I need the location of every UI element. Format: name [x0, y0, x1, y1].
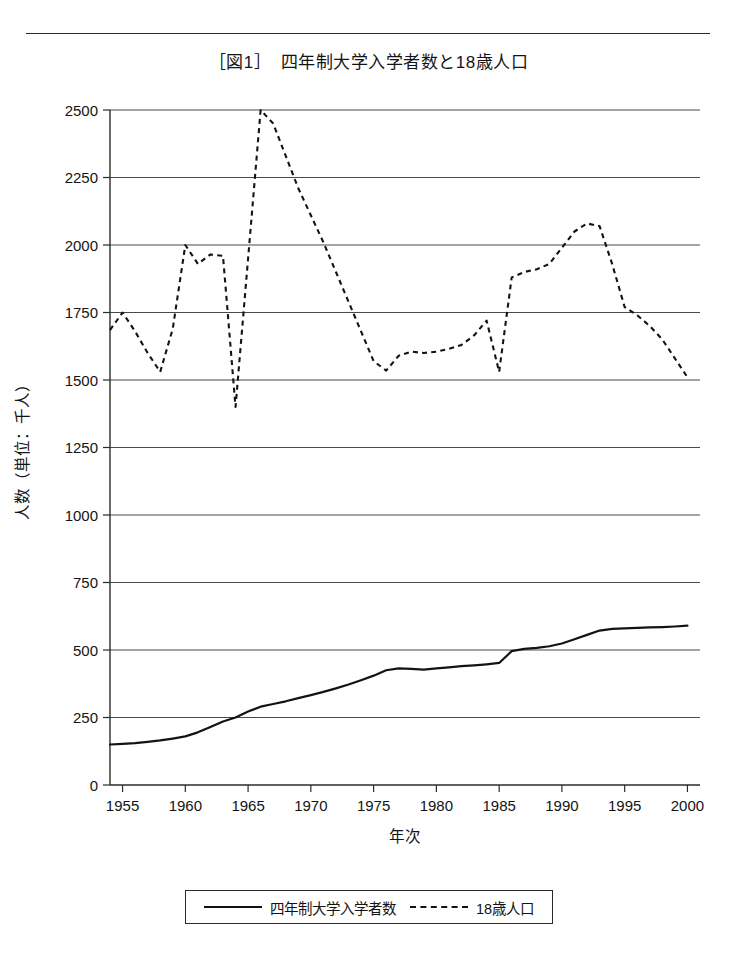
y-tick-label: 1750 [65, 304, 98, 321]
y-tick-label: 250 [73, 709, 98, 726]
y-tick-label: 1250 [65, 439, 98, 456]
x-tick-label: 1985 [482, 797, 515, 814]
y-tick-label: 2500 [65, 102, 98, 119]
y-axis-title: 人数（単位：千人） [14, 376, 31, 520]
x-tick-label: 1975 [357, 797, 390, 814]
x-axis-title: 年次 [389, 828, 421, 845]
x-tick-label: 1970 [294, 797, 327, 814]
series-line-1 [110, 626, 687, 745]
series-line-2 [110, 110, 687, 407]
solid-line-swatch-icon [204, 906, 262, 908]
data-series-group [110, 110, 687, 745]
chart-legend: 四年制大学入学者数 18歳人口 [185, 890, 553, 924]
y-tick-label: 500 [73, 642, 98, 659]
y-tick-label: 0 [90, 777, 98, 794]
legend-entry-population: 18歳人口 [410, 897, 534, 918]
legend-entry-enrollment: 四年制大学入学者数 [204, 897, 396, 918]
x-tick-label: 1955 [106, 797, 139, 814]
legend-label-population: 18歳人口 [476, 897, 534, 918]
top-divider-rule [26, 33, 710, 34]
gridlines-group [110, 110, 700, 718]
figure-page: ［図1］ 四年制大学入学者数と18歳人口 1955196019651970197… [0, 0, 737, 969]
y-tick-label: 2000 [65, 237, 98, 254]
x-tick-label: 1995 [608, 797, 641, 814]
line-chart: 1955196019651970197519801985199019952000… [0, 86, 737, 846]
x-tick-label: 2000 [671, 797, 704, 814]
y-tick-group: 02505007501000125015001750200022502500 [65, 102, 110, 794]
page-title: ［図1］ 四年制大学入学者数と18歳人口 [0, 48, 737, 73]
y-tick-label: 1000 [65, 507, 98, 524]
x-tick-label: 1960 [169, 797, 202, 814]
chart-svg-canvas: 1955196019651970197519801985199019952000… [0, 86, 737, 846]
legend-label-enrollment: 四年制大学入学者数 [270, 897, 396, 918]
x-tick-label: 1980 [420, 797, 453, 814]
x-tick-label: 1965 [231, 797, 264, 814]
y-tick-label: 2250 [65, 169, 98, 186]
y-tick-label: 1500 [65, 372, 98, 389]
dashed-line-swatch-icon [410, 906, 468, 908]
y-tick-label: 750 [73, 574, 98, 591]
x-tick-label: 1990 [545, 797, 578, 814]
x-tick-group: 1955196019651970197519801985199019952000 [106, 785, 704, 814]
